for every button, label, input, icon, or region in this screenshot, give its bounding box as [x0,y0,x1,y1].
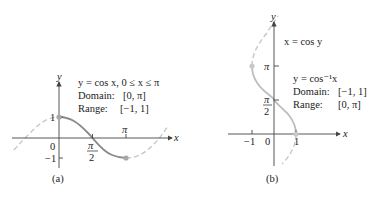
endpoint-top [249,63,254,68]
tick-label-pi: π [122,124,128,135]
tick-label-pi: π [264,61,270,72]
origin-label: 0 [265,136,270,147]
domain-value-b: [−1, 1] [338,86,367,97]
x-axis-label: x [173,132,179,143]
range-value-a: [−1, 1] [120,103,149,114]
y-axis-label: y [270,11,276,22]
domain-label-b: Domain: [293,86,330,97]
tick-label-pi-half-num: π [264,94,270,105]
domain-value-a: [0, π] [123,90,146,101]
tick-label-pi-half-den: 2 [264,106,269,117]
range-label-b: Range: [293,99,323,110]
panel-b: y x −1 0 1 π π 2 x = cos y y = cos⁻¹x Do… [228,11,367,185]
caption-b: (b) [266,173,279,185]
figure-canvas: y x 1 0 −1 π 2 π y = cos x, 0 ≤ x ≤ π Do… [0,0,378,200]
dashed-cos-right [126,126,168,158]
tick-label-1: 1 [294,136,299,147]
y-axis-label: y [56,71,62,82]
x-axis-label: x [342,128,348,139]
tick-label-neg1: −1 [244,136,255,147]
range-value-b: [0, π] [338,99,361,110]
tick-label-pi-half-den: 2 [89,152,94,163]
tick-label-neg1: −1 [45,153,56,164]
caption-a: (a) [52,173,64,185]
origin-label: 0 [50,141,55,152]
range-label-a: Range: [78,103,108,114]
curve-label-b: x = cos y [284,36,323,47]
tick-label-pi-half-num: π [88,140,94,151]
endpoint-start [56,114,61,119]
equation-b: y = cos⁻¹x [293,73,338,84]
equation-a: y = cos x, 0 ≤ x ≤ π [78,77,160,88]
domain-label-a: Domain: [78,90,115,101]
tick-label-1: 1 [50,112,55,123]
endpoint-end [123,155,128,160]
panel-a: y x 1 0 −1 π 2 π y = cos x, 0 ≤ x ≤ π Do… [12,71,179,185]
